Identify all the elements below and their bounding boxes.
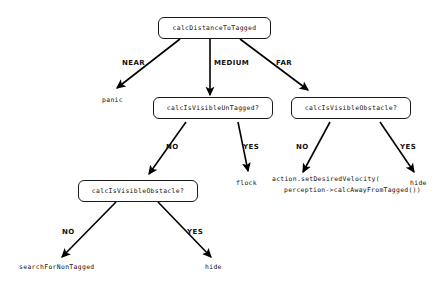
edge-label-near: NEAR (122, 59, 145, 67)
edge-label-far: FAR (276, 59, 292, 67)
leaf-panic: panic (102, 96, 123, 104)
leaf-flock: flock (236, 179, 257, 187)
node-calc-distance-to-tagged[interactable]: calcDistanceToTagged (158, 17, 271, 39)
edge-label-lower-left-yes: YES (187, 228, 203, 236)
leaf-hide-right: hide (410, 179, 427, 187)
node-label: calcIsVisibleObstacle? (305, 104, 397, 112)
node-calc-is-visible-obstacle-right[interactable]: calcIsVisibleObstacle? (291, 97, 411, 119)
leaf-action-set-desired-velocity: action.setDesiredVelocity( perception->c… (272, 174, 421, 196)
edge-label-mid-right-yes: YES (400, 143, 416, 151)
node-calc-is-visible-untagged[interactable]: calcIsVisibleUnTagged? (153, 97, 273, 119)
node-label: calcIsVisibleUnTagged? (167, 104, 259, 112)
decision-tree-diagram: calcDistanceToTagged calcIsVisibleUnTagg… (0, 0, 442, 290)
edge-label-mid-center-no: NO (166, 143, 179, 151)
edge-label-lower-left-no: NO (62, 228, 75, 236)
edge-label-mid-center-yes: YES (243, 143, 259, 151)
node-label: calcDistanceToTagged (173, 24, 257, 32)
edge-root-to-mid-right (240, 39, 308, 90)
edge-label-medium: MEDIUM (214, 59, 249, 67)
edge-layer (0, 0, 442, 290)
node-calc-is-visible-obstacle-lower[interactable]: calcIsVisibleObstacle? (78, 180, 198, 202)
action-line-1: action.setDesiredVelocity( (272, 175, 380, 183)
leaf-hide-bottom: hide (205, 263, 222, 271)
leaf-search-for-non-tagged: searchForNonTagged (19, 263, 95, 271)
action-line-2: perception->calcAwayFromTagged()) (272, 185, 421, 196)
edge-label-mid-right-no: NO (296, 143, 309, 151)
node-label: calcIsVisibleObstacle? (92, 187, 184, 195)
